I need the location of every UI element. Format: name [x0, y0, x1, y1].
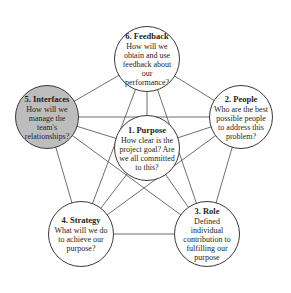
- node-interfaces: 5. Interfaces How will we manage the tea…: [15, 85, 79, 149]
- node-title: 6. Feedback: [125, 31, 168, 41]
- team-effectiveness-diagram: 6. Feedback How will we obtain and use f…: [0, 0, 291, 293]
- node-question: What will we do to achieve our purpose?: [49, 226, 113, 253]
- node-title: 2. People: [225, 94, 258, 104]
- node-people: 2. People Who are the best possible peop…: [209, 85, 273, 149]
- node-role: 3. Role Defined individual contribution …: [174, 201, 240, 267]
- node-title: 1. Purpose: [128, 125, 166, 135]
- node-strategy: 4. Strategy What will we do to achieve o…: [48, 201, 114, 267]
- node-question: Who are the best possible people to addr…: [210, 105, 272, 141]
- node-title: 3. Role: [194, 206, 219, 216]
- node-feedback: 6. Feedback How will we obtain and use f…: [114, 26, 180, 92]
- node-question: How will we obtain and use feedback abou…: [115, 42, 179, 87]
- node-question: How will we manage the team's relationsh…: [16, 105, 78, 141]
- node-purpose: 1. Purpose How clear is the project goal…: [114, 115, 180, 181]
- node-question: How clear is the project goal? Are we al…: [115, 136, 179, 172]
- node-question: Defined individual contribution to fulfi…: [175, 217, 239, 262]
- node-title: 5. Interfaces: [25, 94, 70, 104]
- node-title: 4. Strategy: [61, 215, 100, 225]
